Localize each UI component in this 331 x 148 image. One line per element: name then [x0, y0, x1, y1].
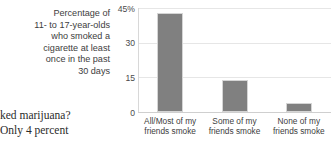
- bar-series: [138, 8, 331, 113]
- chart-caption-line: once in the past: [2, 54, 110, 66]
- x-axis-tick-label: None of myfriends smoke: [273, 116, 325, 136]
- chart-caption-line: cigarette at least: [2, 43, 110, 55]
- x-axis-tick-label-line: friends smoke: [144, 126, 196, 136]
- x-axis-tick-label-line: All/Most of my: [144, 116, 196, 126]
- chart-caption-line: 30 days: [2, 66, 110, 78]
- x-axis-tick-labels: All/Most of myfriends smokeSome of myfri…: [138, 116, 331, 144]
- x-axis-tick-label-line: friends smoke: [273, 126, 325, 136]
- page-body-text: ked marijuana? Only 4 percent: [0, 108, 118, 138]
- bar: [222, 80, 248, 112]
- bar-chart: 45%30150 All/Most of myfriends smokeSome…: [112, 8, 331, 148]
- y-axis-tick-label: 0: [130, 108, 135, 118]
- chart-caption-line: who smoked a: [2, 31, 110, 43]
- bar: [286, 103, 312, 112]
- y-axis-tick-label: 30: [125, 38, 135, 48]
- chart-caption: Percentage of 11- to 17-year-olds who sm…: [2, 8, 110, 78]
- x-axis-tick-label-line: None of my: [273, 116, 325, 126]
- x-axis-tick-label: All/Most of myfriends smoke: [144, 116, 196, 136]
- chart-caption-line: Percentage of: [2, 8, 110, 20]
- x-axis-tick-label-line: friends smoke: [209, 126, 261, 136]
- plot-area: [138, 8, 331, 113]
- y-axis-tick-labels: 45%30150: [112, 8, 135, 120]
- y-axis-tick-label: 15: [125, 73, 135, 83]
- page-text-line: Only 4 percent: [0, 123, 118, 138]
- x-axis-tick-label-line: Some of my: [209, 116, 261, 126]
- page-text-line: ked marijuana?: [0, 108, 118, 123]
- y-axis-tick-label: 45%: [118, 4, 135, 14]
- chart-caption-line: 11- to 17-year-olds: [2, 20, 110, 32]
- x-axis-tick-label: Some of myfriends smoke: [209, 116, 261, 136]
- bar: [157, 13, 183, 112]
